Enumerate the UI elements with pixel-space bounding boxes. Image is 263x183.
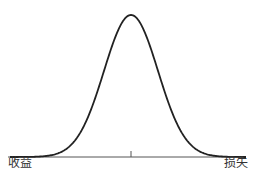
x-axis-right-label: 损失 (224, 156, 248, 170)
bell-curve (10, 15, 246, 157)
x-axis-left-label: 收益 (8, 156, 32, 170)
